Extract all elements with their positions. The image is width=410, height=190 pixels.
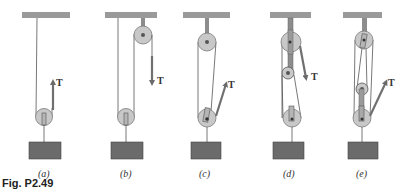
panel-b: T (b) [105,12,164,180]
load-block [29,142,61,159]
tension-label: T [311,71,318,82]
pulley-systems-figure: T (a) T (b) T (c) [0,0,410,190]
pulley-axle [205,117,209,121]
panel-d: T (d) [270,12,318,180]
load-block [273,142,304,159]
panel-label: (c) [199,168,211,180]
rope [36,18,37,116]
ceiling [270,12,311,18]
rope [354,40,355,118]
panel-label: (b) [120,168,132,180]
rope [357,48,362,88]
ceiling [22,12,70,18]
tension-arrow [370,82,386,116]
pulley-strap [42,113,46,125]
tension-arrow [300,46,306,78]
tension-label: T [388,77,395,88]
tension-label: T [157,75,164,86]
ceiling [183,12,230,18]
panel-e: T (e) [343,12,395,180]
rope [370,40,373,118]
pulley-axle [286,71,290,75]
rope [211,42,216,112]
panel-c: T (c) [183,12,235,180]
panel-a: T (a) [22,12,70,180]
rope [366,48,367,88]
pulley-axle [363,39,366,42]
ceiling [105,12,157,18]
tension-arrow [216,84,226,116]
load-block [111,142,143,159]
ceiling [343,12,382,18]
pulley-axle [205,40,209,44]
figure-caption: Fig. P2.49 [2,177,53,189]
panel-label: (d) [283,168,295,180]
pulley-axle [289,41,292,44]
pulley-strap [124,113,128,125]
load-block [191,142,221,159]
panel-label: (e) [356,168,368,180]
pulley-axle [141,33,145,37]
tension-label: T [56,77,63,88]
pulley-axle [361,118,364,121]
pulley-axle [291,118,294,121]
tension-label: T [228,79,235,90]
load-block [348,142,378,159]
